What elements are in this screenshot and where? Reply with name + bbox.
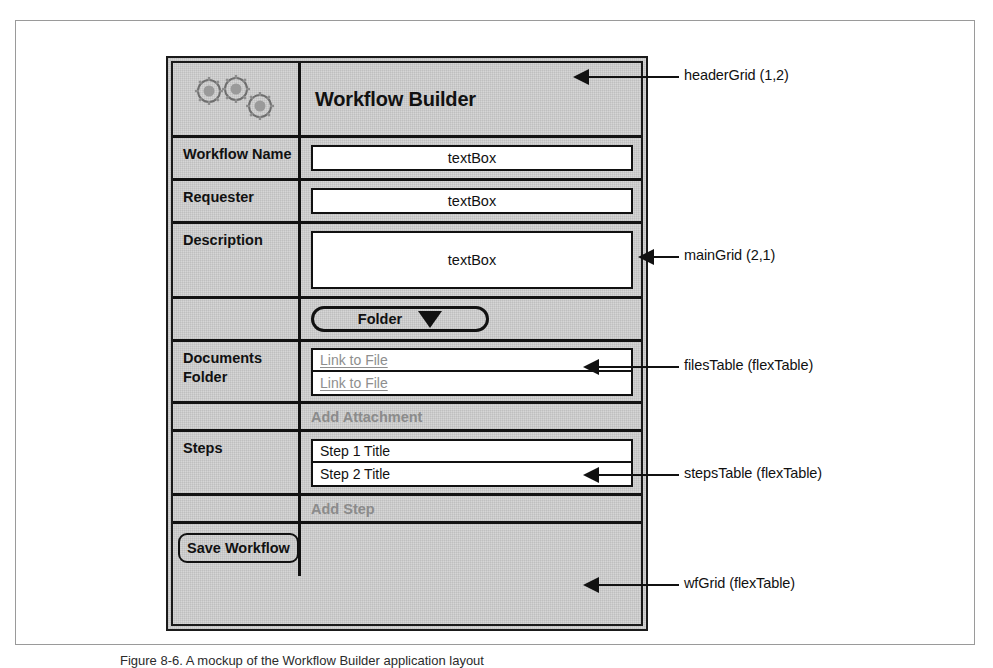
annotation-steps-table: stepsTable (flexTable) <box>684 465 822 481</box>
folder-dropdown[interactable]: Folder <box>311 306 489 332</box>
label-workflow-name: Workflow Name <box>173 138 301 178</box>
link-to-file-2[interactable]: Link to File <box>320 375 388 391</box>
figure-caption: Figure 8-6. A mockup of the Workflow Bui… <box>120 653 484 668</box>
main-grid: Workflow Name textBox Requester textBox … <box>173 138 641 624</box>
field-cell-save-empty <box>301 524 641 576</box>
link-to-file-1[interactable]: Link to File <box>320 352 388 368</box>
requester-input[interactable]: textBox <box>311 188 633 214</box>
field-cell-add-step[interactable]: Add Step <box>301 496 641 521</box>
step-1-title[interactable]: Step 1 Title <box>320 443 390 459</box>
row-documents-folder: Documents Folder Link to File Link to Fi… <box>173 342 641 404</box>
description-input[interactable]: textBox <box>311 231 633 289</box>
annotation-arrow-steps-table <box>583 467 599 483</box>
field-cell-steps-table: Step 1 Title Step 2 Title <box>301 432 641 493</box>
annotation-header-grid: headerGrid (1,2) <box>684 67 789 83</box>
label-folder-empty <box>173 299 301 339</box>
row-save-workflow: Save Workflow <box>173 524 641 576</box>
row-requester: Requester textBox <box>173 181 641 224</box>
field-cell-description: textBox <box>301 224 641 296</box>
step-2-title[interactable]: Step 2 Title <box>320 466 390 482</box>
header-title-cell: Workflow Builder <box>301 63 641 135</box>
field-cell-workflow-name: textBox <box>301 138 641 178</box>
header-grid: Workflow Builder <box>173 63 641 138</box>
header-icon-cell <box>173 63 301 135</box>
gears-icon <box>184 73 288 125</box>
row-folder-select: Folder <box>173 299 641 342</box>
row-description: Description textBox <box>173 224 641 299</box>
annotation-wf-grid: wfGrid (flexTable) <box>684 575 795 591</box>
annotation-files-table: filesTable (flexTable) <box>684 357 813 373</box>
folder-dropdown-label: Folder <box>358 311 402 327</box>
table-row[interactable]: Step 1 Title <box>313 441 631 463</box>
chevron-down-icon <box>418 311 442 328</box>
annotation-line-header-grid <box>589 76 679 78</box>
annotation-line-steps-table <box>599 474 679 476</box>
field-cell-requester: textBox <box>301 181 641 221</box>
label-add-attachment-empty <box>173 404 301 429</box>
label-steps: Steps <box>173 432 301 493</box>
annotation-main-grid: mainGrid (2,1) <box>684 247 775 263</box>
label-documents-folder-line2: Folder <box>183 368 298 387</box>
row-add-step: Add Step <box>173 496 641 524</box>
label-description: Description <box>173 224 301 296</box>
row-workflow-name: Workflow Name textBox <box>173 138 641 181</box>
workflow-name-input[interactable]: textBox <box>311 145 633 171</box>
annotation-line-files-table <box>599 366 679 368</box>
mockup-panel-inner: Workflow Builder Workflow Name textBox R… <box>171 61 643 626</box>
annotation-line-wf-grid <box>599 584 679 586</box>
figure-frame: Workflow Builder Workflow Name textBox R… <box>15 20 975 645</box>
field-cell-folder: Folder <box>301 299 641 339</box>
field-cell-add-attachment[interactable]: Add Attachment <box>301 404 641 429</box>
add-step-button[interactable]: Add Step <box>311 501 375 517</box>
annotation-line-main-grid <box>654 256 679 258</box>
page-title: Workflow Builder <box>315 88 476 111</box>
mockup-panel: Workflow Builder Workflow Name textBox R… <box>166 56 648 631</box>
save-button-cell: Save Workflow <box>173 524 301 576</box>
add-attachment-button[interactable]: Add Attachment <box>311 409 422 425</box>
row-add-attachment: Add Attachment <box>173 404 641 432</box>
row-steps: Steps Step 1 Title Step 2 Title <box>173 432 641 496</box>
save-workflow-button[interactable]: Save Workflow <box>178 533 299 563</box>
label-documents-folder: Documents Folder <box>173 342 301 401</box>
annotation-arrow-wf-grid <box>583 577 599 593</box>
label-add-step-empty <box>173 496 301 521</box>
label-documents-folder-line1: Documents <box>183 349 298 368</box>
label-requester: Requester <box>173 181 301 221</box>
annotation-arrow-header-grid <box>573 69 589 85</box>
annotation-arrow-files-table <box>583 359 599 375</box>
annotation-arrow-main-grid <box>638 249 654 265</box>
